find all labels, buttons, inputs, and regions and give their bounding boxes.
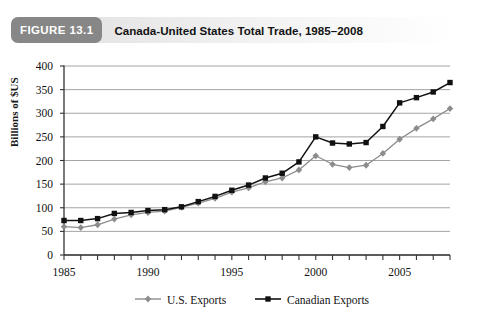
data-point-square — [61, 218, 66, 223]
data-point-square — [145, 208, 150, 213]
data-point-square — [363, 140, 368, 145]
y-axis-tick-label: 200 — [36, 155, 54, 167]
series-line-square — [64, 83, 450, 221]
legend-marker-diamond-icon — [145, 296, 151, 303]
y-axis-tick-label: 50 — [42, 225, 54, 237]
data-point-diamond — [346, 164, 352, 171]
legend-item[interactable]: Canadian Exports — [255, 294, 370, 307]
legend-marker-square-icon — [265, 296, 270, 301]
figure-header: FIGURE 13.1 Canada-United States Total T… — [11, 17, 455, 43]
y-axis-tick-label: 300 — [36, 107, 54, 119]
data-point-square — [162, 207, 167, 212]
x-axis-tick-label: 2000 — [304, 266, 327, 278]
data-point-square — [78, 218, 83, 223]
y-axis-title: Billions of $US — [8, 77, 20, 147]
data-point-diamond — [329, 161, 335, 168]
x-axis-tick-label: 1985 — [53, 266, 76, 278]
figure-number-badge: FIGURE 13.1 — [11, 17, 102, 43]
data-point-square — [95, 216, 100, 221]
data-point-diamond — [430, 116, 436, 123]
legend-item[interactable]: U.S. Exports — [135, 294, 227, 307]
data-point-diamond — [447, 105, 453, 112]
figure-container: FIGURE 13.1 Canada-United States Total T… — [0, 0, 482, 317]
data-point-diamond — [413, 125, 419, 132]
series-line-diamond — [64, 109, 450, 228]
data-point-square — [380, 124, 385, 129]
data-point-square — [397, 100, 402, 105]
data-point-diamond — [363, 162, 369, 169]
data-point-square — [431, 89, 436, 94]
data-point-square — [128, 210, 133, 215]
y-axis-tick-label: 250 — [36, 131, 54, 143]
data-point-square — [263, 175, 268, 180]
data-point-square — [447, 80, 452, 85]
y-axis-tick-label: 100 — [36, 202, 54, 214]
chart-area: Billions of $US 050100150200250300350400… — [0, 52, 482, 317]
data-point-square — [179, 204, 184, 209]
data-point-square — [112, 211, 117, 216]
legend-label: Canadian Exports — [287, 294, 370, 307]
data-point-square — [279, 171, 284, 176]
figure-title: Canada-United States Total Trade, 1985–2… — [114, 24, 363, 37]
data-point-square — [229, 188, 234, 193]
line-chart: 0501001502002503003504001985199019952000… — [0, 52, 482, 317]
data-point-square — [414, 95, 419, 100]
data-point-square — [196, 199, 201, 204]
x-axis-tick-label: 2005 — [388, 266, 411, 278]
data-point-square — [347, 141, 352, 146]
y-axis-tick-label: 400 — [36, 60, 54, 72]
data-point-square — [330, 140, 335, 145]
legend-label: U.S. Exports — [167, 294, 227, 307]
x-axis-tick-label: 1990 — [136, 266, 159, 278]
data-point-square — [212, 194, 217, 199]
data-point-diamond — [111, 216, 117, 223]
data-point-diamond — [61, 223, 67, 230]
data-point-diamond — [94, 221, 100, 228]
data-point-square — [246, 182, 251, 187]
y-axis-tick-label: 150 — [36, 178, 54, 190]
data-point-diamond — [78, 224, 84, 231]
data-point-square — [313, 134, 318, 139]
x-axis-tick-label: 1995 — [220, 266, 243, 278]
y-axis-tick-label: 350 — [36, 84, 54, 96]
data-point-square — [296, 159, 301, 164]
y-axis-tick-label: 0 — [47, 249, 53, 261]
